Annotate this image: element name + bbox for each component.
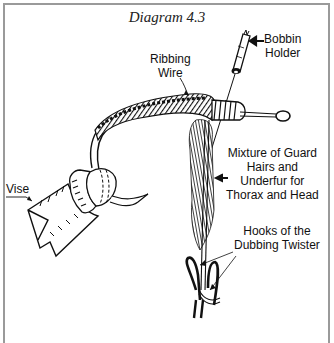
label-guard-hair-mixture: Mixture of Guard Hairs and Underfur for … — [226, 146, 319, 202]
label-bobbin-holder: Bobbin Holder — [264, 32, 301, 60]
label-vise: Vise — [6, 182, 29, 196]
guard-hair-fur — [189, 120, 214, 250]
bobbin-holder-icon — [232, 30, 251, 74]
hook-barb — [110, 194, 148, 206]
hook-eye-icon — [276, 111, 290, 121]
arrow-icon — [250, 37, 264, 45]
label-dubbing-twister-hooks: Hooks of the Dubbing Twister — [234, 224, 320, 252]
thread-wraps — [212, 100, 245, 120]
vise-icon — [28, 169, 116, 256]
label-ribbing-wire: Ribbing Wire — [150, 52, 191, 80]
